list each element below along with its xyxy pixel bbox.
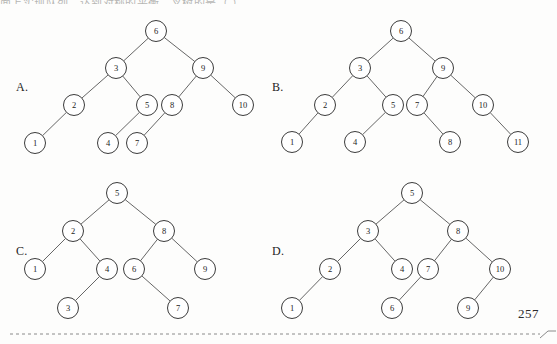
tree-node-1: 1 bbox=[25, 259, 46, 280]
tree-edge-2-1 bbox=[299, 277, 322, 301]
tree-edge-3-2 bbox=[332, 76, 353, 98]
tree-edge-4-3 bbox=[75, 276, 99, 300]
tree-edge-5-3 bbox=[376, 200, 404, 224]
tree-edge-3-2 bbox=[82, 75, 108, 98]
tree-node-7: 7 bbox=[168, 298, 189, 319]
node-value: 3 bbox=[358, 63, 362, 73]
tree-edge-8-7 bbox=[144, 113, 165, 136]
tree-edge-9-10 bbox=[451, 75, 476, 98]
tree-node-10: 10 bbox=[473, 95, 494, 116]
tree-edge-8-9 bbox=[172, 238, 198, 262]
node-value: 5 bbox=[391, 100, 395, 110]
binary-tree-options-figure: 6392581014763925710148115281469375382471… bbox=[0, 0, 557, 344]
tree-edge-7-6 bbox=[399, 277, 421, 301]
node-value: 3 bbox=[366, 226, 370, 236]
node-value: 5 bbox=[145, 100, 149, 110]
node-value: 8 bbox=[456, 226, 460, 236]
trees-layer: 6392581014763925710148115281469375382471… bbox=[25, 21, 529, 319]
node-value: 3 bbox=[66, 303, 70, 313]
tree-node-4: 4 bbox=[98, 133, 119, 154]
node-value: 5 bbox=[410, 188, 414, 198]
tree-node-9: 9 bbox=[458, 298, 479, 319]
node-value: 1 bbox=[33, 264, 37, 274]
tree-node-8: 8 bbox=[448, 221, 469, 242]
tree-edge-2-1 bbox=[42, 238, 65, 261]
node-value: 1 bbox=[33, 138, 37, 148]
tree-node-1: 1 bbox=[282, 298, 303, 319]
node-value: 10 bbox=[239, 100, 248, 110]
tree-node-7: 7 bbox=[407, 95, 428, 116]
tree-edge-6-9 bbox=[409, 38, 435, 61]
node-value: 8 bbox=[162, 226, 166, 236]
node-value: 7 bbox=[176, 303, 180, 313]
tree-node-5: 5 bbox=[402, 183, 423, 204]
tree-node-6: 6 bbox=[146, 21, 167, 42]
tree-edge-2-1 bbox=[43, 112, 67, 135]
tree-node-1: 1 bbox=[25, 133, 46, 154]
node-value: 9 bbox=[201, 63, 205, 73]
node-value: 7 bbox=[415, 100, 419, 110]
node-value: 11 bbox=[514, 137, 522, 147]
tree-node-6: 6 bbox=[391, 21, 412, 42]
tree-edge-3-4 bbox=[375, 239, 395, 261]
node-value: 2 bbox=[328, 264, 332, 274]
node-value: 7 bbox=[426, 264, 430, 274]
tree-edge-9-7 bbox=[423, 77, 437, 97]
tree-node-6: 6 bbox=[382, 298, 403, 319]
tree-node-1: 1 bbox=[282, 132, 303, 153]
tree-edge-9-8 bbox=[179, 76, 197, 97]
tree-node-3: 3 bbox=[350, 58, 371, 79]
node-value: 6 bbox=[390, 303, 394, 313]
node-value: 6 bbox=[399, 26, 403, 36]
tree-node-3: 3 bbox=[106, 58, 127, 79]
tree-node-5: 5 bbox=[137, 95, 158, 116]
tree-node-7: 7 bbox=[127, 133, 148, 154]
tree-node-8: 8 bbox=[154, 221, 175, 242]
tree-edge-7-8 bbox=[424, 113, 443, 134]
tree-node-3: 3 bbox=[58, 298, 79, 319]
node-value: 3 bbox=[114, 63, 118, 73]
tree-edge-3-5 bbox=[123, 76, 141, 97]
page-corner-mark bbox=[540, 331, 556, 338]
tree-edge-8-7 bbox=[435, 239, 452, 261]
node-value: 6 bbox=[132, 264, 136, 274]
tree-edge-6-3 bbox=[124, 38, 149, 61]
tree-option-b: 6392571014811 bbox=[282, 21, 529, 153]
tree-node-2: 2 bbox=[315, 95, 336, 116]
tree-node-9: 9 bbox=[195, 259, 216, 280]
node-value: 9 bbox=[203, 264, 207, 274]
tree-node-8: 8 bbox=[440, 132, 461, 153]
tree-edge-5-4 bbox=[363, 112, 386, 134]
tree-node-3: 3 bbox=[358, 221, 379, 242]
tree-node-2: 2 bbox=[64, 95, 85, 116]
tree-node-6: 6 bbox=[124, 259, 145, 280]
node-value: 2 bbox=[323, 100, 327, 110]
node-value: 8 bbox=[170, 100, 174, 110]
node-value: 2 bbox=[71, 226, 75, 236]
tree-node-4: 4 bbox=[97, 259, 118, 280]
tree-edge-3-2 bbox=[337, 238, 360, 261]
tree-edge-2-1 bbox=[299, 113, 318, 134]
tree-node-7: 7 bbox=[418, 259, 439, 280]
tree-node-10: 10 bbox=[233, 95, 254, 116]
node-value: 10 bbox=[496, 264, 505, 274]
page-number: 257 bbox=[518, 306, 539, 322]
tree-edge-10-9 bbox=[475, 277, 494, 300]
tree-option-a: 63925810147 bbox=[25, 21, 254, 154]
tree-edge-6-7 bbox=[142, 276, 170, 301]
tree-node-4: 4 bbox=[392, 259, 413, 280]
tree-edge-3-5 bbox=[367, 76, 386, 97]
tree-edge-10-11 bbox=[490, 113, 511, 135]
tree-node-5: 5 bbox=[383, 95, 404, 116]
tree-edge-2-4 bbox=[80, 239, 100, 261]
node-value: 10 bbox=[479, 100, 488, 110]
tree-edge-5-8 bbox=[420, 200, 450, 225]
choice-label-c: C. bbox=[16, 244, 28, 259]
tree-edge-6-9 bbox=[164, 37, 195, 61]
tree-edge-5-8 bbox=[125, 200, 156, 225]
tree-node-8: 8 bbox=[162, 95, 183, 116]
node-value: 9 bbox=[466, 303, 470, 313]
tree-node-11: 11 bbox=[508, 132, 529, 153]
tree-edge-5-2 bbox=[81, 200, 109, 224]
node-value: 8 bbox=[448, 137, 452, 147]
